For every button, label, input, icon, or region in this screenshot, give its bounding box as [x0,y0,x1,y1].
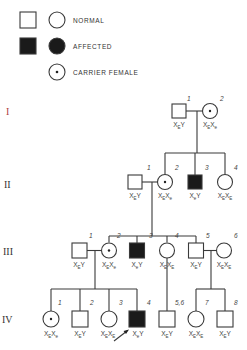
III-6-female-icon [217,243,232,258]
II-4-female-icon [218,175,233,190]
IV-1-genotype: XEXe [44,330,58,339]
III-4-number: 4 [175,232,179,239]
generation-II-label: II [4,179,11,190]
I-1-male-icon [172,104,186,118]
legend-normal-label: NORMAL [73,17,104,24]
IV-4-number: 4 [147,299,151,306]
legend-female-normal-icon [49,12,65,28]
III-3-genotype: XeY [131,261,142,270]
III-1-number: 1 [89,232,93,239]
IV-2-male-icon [72,311,88,327]
IV-4-affected-male-icon [129,311,145,327]
III-2-number: 2 [117,232,121,239]
III-3-number: 3 [149,232,153,239]
I-1-genotype: XEY [173,121,185,130]
II-1-number: 1 [147,164,151,171]
II-2-number: 2 [175,164,179,171]
IV-8-genotype: XEY [219,330,231,339]
pedigree-lines [0,0,247,350]
II-4-genotype: XEXE [218,192,233,201]
pedigree-diagram: NORMAL AFFECTED CARRIER FEMALE I II III … [0,0,247,350]
generation-I-label: I [6,106,9,117]
I-2-number: 2 [220,95,224,102]
III-5-number: 5 [206,232,210,239]
III-5-genotype: XEY [190,261,202,270]
IV-5-6-male-icon [159,311,175,327]
IV-8-number: 8 [234,299,238,306]
IV-2-number: 2 [90,299,94,306]
IV-7-genotype: XEXE [189,330,204,339]
generation-III-label: III [3,246,13,257]
IV-7-number: 7 [205,299,209,306]
III-4-female-icon [160,243,175,258]
III-1-genotype: XEY [73,261,85,270]
III-2-genotype: XEXe [102,261,116,270]
IV-1-number: 1 [58,299,62,306]
generation-IV-label: IV [2,314,13,325]
legend-male-affected-icon [20,38,36,54]
III-6-number: 6 [234,232,238,239]
II-3-number: 3 [205,164,209,171]
legend-carrier-label: CARRIER FEMALE [73,69,138,76]
proband-arrow-icon [114,330,129,342]
II-1-genotype: XEY [129,192,141,201]
III-5-male-icon [189,243,204,258]
III-4-genotype: XEXE [160,261,175,270]
III-3-affected-male-icon [130,243,145,258]
II-4-number: 4 [234,164,238,171]
IV-5-6-number: 5,6 [175,299,184,306]
I-1-number: 1 [187,95,191,102]
II-2-genotype: XEXe [158,192,172,201]
IV-3-genotype: XEXE [101,330,116,339]
III-1-male-icon [72,243,87,258]
II-1-male-icon [128,175,142,189]
I-2-genotype: XEXe [203,121,217,130]
IV-5-6-genotype: XEY [161,330,173,339]
legend-male-normal-icon [20,12,36,28]
II-3-genotype: XeY [189,192,200,201]
II-3-affected-male-icon [188,175,202,189]
legend-affected-label: AFFECTED [73,43,112,50]
legend-female-affected-icon [49,38,65,54]
IV-3-number: 3 [119,299,123,306]
IV-3-female-icon [101,311,117,327]
III-6-genotype: XEXE [217,261,232,270]
IV-4-genotype: XeY [132,330,143,339]
IV-7-female-icon [188,311,204,327]
IV-8-male-icon [217,311,233,327]
IV-2-genotype: XEY [74,330,86,339]
